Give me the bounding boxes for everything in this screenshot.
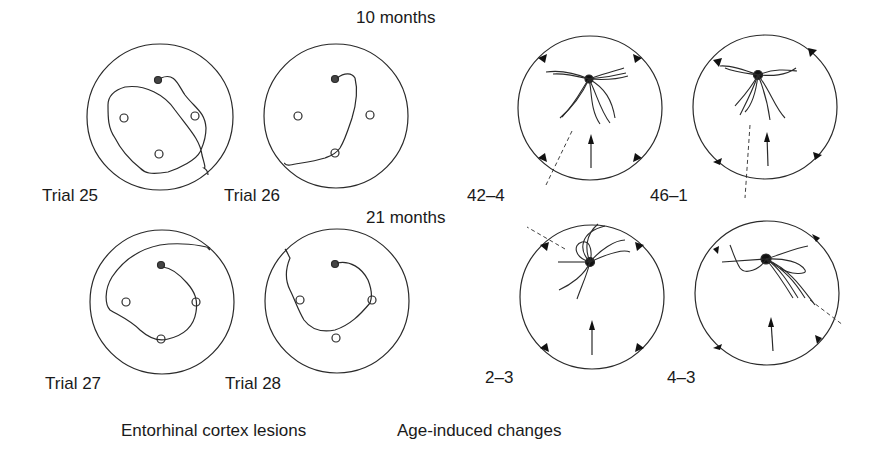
maze-trial-27: [90, 230, 234, 374]
swim-path: [284, 74, 356, 165]
start-point-west: [120, 114, 128, 122]
caption-entorhinal-cortex-lesions: Entorhinal cortex lesions: [121, 421, 306, 441]
start-point-west: [296, 296, 304, 304]
subject-label-4-3: 4–3: [667, 368, 695, 388]
age-label-21-months: 21 months: [366, 208, 445, 228]
start-point-west: [122, 298, 130, 306]
swim-path: [285, 249, 371, 331]
maze-subject-2-3: [520, 224, 664, 369]
start-point-east: [366, 111, 374, 119]
age-label-10-months: 10 months: [356, 8, 435, 28]
trial-label-27: Trial 27: [45, 374, 101, 394]
goal-platform: [155, 77, 162, 84]
maze-subject-4-3: [695, 221, 843, 365]
maze-subject-46-1: [693, 35, 837, 198]
maze-trial-25: [87, 44, 233, 190]
swim-path: [106, 244, 210, 340]
start-arrow-head: [764, 132, 770, 142]
pool-outline: [90, 230, 234, 374]
goal-platform: [332, 261, 339, 268]
subject-label-46-1: 46–1: [650, 186, 688, 206]
start-arrow-head: [589, 320, 595, 330]
maze-trial-28: [265, 229, 409, 373]
maze-trial-26: [264, 44, 408, 188]
subject-label-42-4: 42–4: [467, 186, 505, 206]
cue-markers: [538, 54, 642, 162]
start-point-south: [332, 334, 340, 342]
subject-label-2-3: 2–3: [485, 368, 513, 388]
expected-direction-line: [745, 125, 750, 198]
start-point-east: [191, 112, 199, 120]
start-point-south: [155, 150, 163, 158]
maze-subject-42-4: [518, 36, 662, 185]
start-arrow-head: [588, 134, 594, 144]
start-point-south: [157, 335, 165, 343]
trial-label-25: Trial 25: [42, 186, 98, 206]
figure-canvas: [0, 0, 877, 457]
start-point-east: [368, 296, 376, 304]
trial-label-28: Trial 28: [225, 374, 281, 394]
start-point-west: [294, 112, 302, 120]
trial-label-26: Trial 26: [224, 186, 280, 206]
swim-path: [108, 76, 208, 175]
caption-age-induced-changes: Age-induced changes: [397, 421, 561, 441]
start-arrow-head: [768, 317, 774, 327]
goal-platform: [332, 76, 339, 83]
pool-outline: [264, 44, 408, 188]
